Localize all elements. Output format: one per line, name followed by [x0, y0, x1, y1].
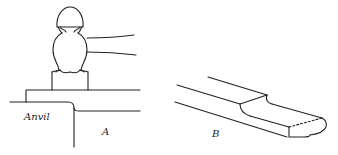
- panel-label-a: A: [102, 126, 109, 137]
- stock-bar: [26, 90, 140, 102]
- diagram-drawing: [0, 0, 338, 155]
- hammer-illustration: [52, 7, 136, 90]
- anvil-shape: [10, 102, 140, 147]
- panel-label-b: B: [212, 128, 219, 139]
- figure-canvas: Anvil A B: [0, 0, 338, 155]
- anvil-label: Anvil: [24, 111, 50, 122]
- bar-end-illustration: [175, 77, 326, 137]
